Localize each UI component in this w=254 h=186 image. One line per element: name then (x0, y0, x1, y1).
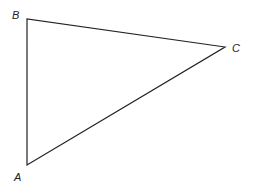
triangle-abc (27, 19, 225, 165)
vertex-label-b: B (12, 9, 19, 21)
vertex-label-c: C (232, 42, 240, 54)
vertex-label-a: A (13, 171, 21, 183)
triangle-diagram: B C A (0, 0, 254, 186)
